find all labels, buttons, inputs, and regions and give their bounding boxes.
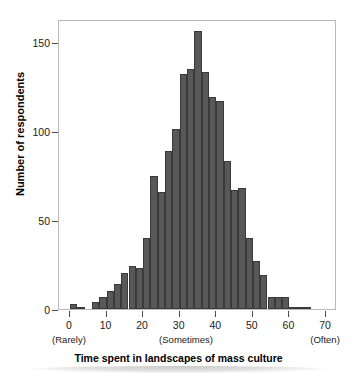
x-axis-tick-mark <box>142 311 143 317</box>
histogram-bar <box>289 307 296 309</box>
page-shadow <box>28 366 328 373</box>
plot-area <box>58 20 336 310</box>
x-axis-tick-label: 0 <box>49 319 89 331</box>
x-axis-annotation: (Sometimes) <box>146 334 226 345</box>
histogram-bar <box>77 307 84 309</box>
x-axis-tick-mark <box>179 311 180 317</box>
histogram-bar <box>143 238 150 309</box>
x-axis-tick-label: 50 <box>232 319 272 331</box>
histogram-bar <box>165 151 172 309</box>
y-axis-tick-mark <box>52 310 58 311</box>
histogram-bar <box>275 297 282 309</box>
histogram-bar <box>70 304 77 309</box>
y-axis-tick-label: 50 <box>10 216 50 226</box>
x-axis-annotation: (Often) <box>285 334 357 345</box>
x-axis-tick-mark <box>288 311 289 317</box>
histogram-bar <box>238 188 245 309</box>
histogram-bar <box>92 302 99 309</box>
histogram-bar <box>187 69 194 309</box>
x-axis-tick-mark <box>325 311 326 317</box>
histogram-bar <box>231 190 238 309</box>
x-axis-tick-label: 20 <box>122 319 162 331</box>
histogram-bar <box>202 72 209 309</box>
y-axis-tick-label: 0 <box>10 305 50 315</box>
histogram-bar <box>216 101 223 309</box>
histogram-bar <box>114 284 121 309</box>
histogram-bar <box>268 297 275 309</box>
histogram-bars <box>59 21 335 309</box>
histogram-bar <box>180 74 187 309</box>
x-axis-tick-label: 30 <box>159 319 199 331</box>
x-axis-tick-mark <box>69 311 70 317</box>
histogram-bar <box>158 192 165 309</box>
histogram-bar <box>107 291 114 309</box>
histogram-bar <box>99 297 106 309</box>
histogram-bar <box>297 307 304 309</box>
histogram-bar <box>224 161 231 309</box>
histogram-bar <box>209 97 216 309</box>
histogram-bar <box>172 129 179 309</box>
x-axis-tick-label: 40 <box>195 319 235 331</box>
x-axis-annotation: (Rarely) <box>29 334 109 345</box>
histogram-bar <box>253 261 260 309</box>
histogram-bar <box>150 176 157 309</box>
x-axis-tick-label: 10 <box>86 319 126 331</box>
histogram-bar <box>260 275 267 309</box>
x-axis-title: Time spent in landscapes of mass culture <box>0 352 357 364</box>
x-axis-tick-mark <box>215 311 216 317</box>
histogram-bar <box>304 307 311 309</box>
histogram-bar <box>282 297 289 309</box>
histogram-bar <box>194 31 201 309</box>
histogram-bar <box>136 268 143 309</box>
histogram-bar <box>246 238 253 309</box>
histogram-bar <box>129 266 136 309</box>
y-axis-tick-label: 150 <box>10 38 50 48</box>
x-axis-tick-mark <box>252 311 253 317</box>
x-axis-tick-label: 70 <box>305 319 345 331</box>
histogram-bar <box>121 273 128 309</box>
y-axis-tick-label: 100 <box>10 127 50 137</box>
x-axis-tick-mark <box>106 311 107 317</box>
x-axis-tick-label: 60 <box>268 319 308 331</box>
